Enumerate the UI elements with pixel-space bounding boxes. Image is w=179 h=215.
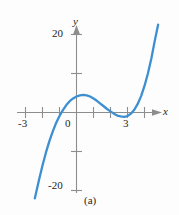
y-tick-label-20: 20 xyxy=(52,28,63,39)
x-tick-label-0: 0 xyxy=(65,118,71,129)
y-axis-label: y xyxy=(73,16,78,27)
figure-caption: (a) xyxy=(84,195,96,206)
y-tick-label--20: -20 xyxy=(48,180,63,191)
cubic-curve-main xyxy=(35,25,158,199)
x-tick-label-3: 3 xyxy=(123,118,129,129)
x-axis-label: x xyxy=(163,106,168,117)
x-tick-label--3: -3 xyxy=(18,118,27,129)
figure-panel-a: -3 0 3 20 -20 x y (a) xyxy=(0,0,179,215)
cubic-function-plot xyxy=(0,0,179,215)
x-axis-arrow-icon xyxy=(152,109,162,116)
